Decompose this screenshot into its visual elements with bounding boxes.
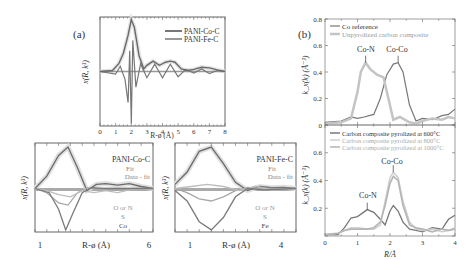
plot-a-co: x(R, k³) 1 6 R-ø (Å) PANI-Co-C Fit Data … [20,143,153,250]
svg-text:5: 5 [176,128,180,136]
legend-label: Carbon composite pyrolized at 1000°C [342,144,444,151]
legend-shell: S [263,213,267,221]
svg-text:0: 0 [319,122,323,130]
svg-text:0.4: 0.4 [313,69,322,77]
panel-label-b: (b) [298,28,311,41]
x-tick: 6 [147,240,152,250]
svg-text:0.8: 0.8 [313,16,322,24]
legend-shell: O or N [113,204,132,212]
y-axis-label: k_x(k) (Å⁻³) [301,55,310,94]
svg-text:2: 2 [130,128,134,136]
plot-b-top: 00.20.40.60.8 k_x(k) (Å⁻³) Co reference … [301,16,455,130]
svg-text:0.6: 0.6 [313,149,322,157]
legend-shell: Co [119,222,128,230]
svg-text:6: 6 [192,128,196,136]
x-axis-label: R-ø (Å) [82,240,110,250]
svg-text:1: 1 [356,239,360,247]
legend-fit: Fit [126,165,134,173]
y-axis-label: x(R, k³) [161,176,170,201]
svg-text:7: 7 [208,128,212,136]
legend-label: Co reference [342,23,378,31]
legend-label: Carbon composite pyrolized at 800°C [342,137,440,144]
peak-label-co-co: Co-Co [381,157,402,166]
legend-label: PANI-Fe-C [184,35,218,44]
svg-text:1: 1 [114,128,118,136]
peak-label-co-co: Co-Co [386,45,407,54]
legend-shell: O or N [255,204,274,212]
svg-text:4: 4 [453,239,457,247]
panel-title: PANI-Fe-C [256,155,293,164]
plot-b-bottom: 0.20.40.601234 k_x(k) (Å⁻³) R/Å Carbon c… [301,125,457,259]
svg-text:0.2: 0.2 [313,205,322,213]
y-axis-label: k_x(k) (Å⁻³) [301,165,310,204]
panel-title: PANI-Co-C [112,155,150,164]
x-axis-label: R-ø (Å) [222,240,250,250]
svg-text:0.2: 0.2 [313,95,322,103]
x-axis-label: R/Å [383,250,396,259]
legend-data-fit: Data - fit [125,173,150,181]
x-tick: 1 [188,240,193,250]
panel-label-a: (a) [73,28,86,41]
svg-text:2: 2 [388,239,392,247]
legend-fit: Fit [268,165,276,173]
plot-a-fe: x(R, k³) 1 4 R-ø (Å) PANI-Fe-C Fit Data … [161,143,296,250]
x-axis-label: R-ø (Å) [150,131,174,140]
svg-text:3: 3 [145,128,149,136]
legend-shell: S [121,213,125,221]
peak-label-co-n: Co-N [359,191,377,200]
x-tick: 1 [38,240,43,250]
legend-data-fit: Data - fit [268,173,293,181]
legend-shell: Fe [262,222,269,230]
svg-text:0.6: 0.6 [313,42,322,50]
svg-text:3: 3 [421,239,425,247]
x-tick: 4 [279,240,284,250]
svg-text:8: 8 [223,128,227,136]
legend-label: Carbon composite pyrolized at 600°C [342,130,440,137]
plot-a-main: 012345678 x(R, k³) R-ø (Å) PANI-Co-C PAN… [81,17,227,140]
legend-label: Unpyrolized carbon composite [342,31,428,39]
svg-text:0.4: 0.4 [313,177,322,185]
peak-label-co-n: Co-N [357,45,375,54]
y-axis-label: x(R, k³) [20,176,29,201]
svg-text:0: 0 [98,128,102,136]
y-axis-label: x(R, k³) [81,60,90,85]
figure-canvas: (a) (b) 012345678 x(R, k³) R-ø (Å) PANI-… [0,0,476,260]
svg-text:0: 0 [323,239,327,247]
